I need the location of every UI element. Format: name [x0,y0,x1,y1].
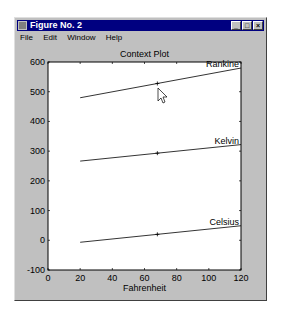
series-label-rankine: Rankine [206,59,239,69]
axes-box [48,62,241,270]
x-tick-label: 0 [45,273,50,283]
x-axis-label: Fahrenheit [123,283,167,293]
chart-title: Context Plot [120,49,170,59]
y-tick-label: 200 [30,176,45,186]
y-tick-label: -100 [27,265,45,275]
y-tick-label: 500 [30,87,45,97]
x-tick-label: 40 [107,273,117,283]
x-tick-label: 80 [172,273,182,283]
y-tick-label: 100 [30,206,45,216]
series-label-celsius: Celsius [209,217,239,227]
series-label-kelvin: Kelvin [214,136,239,146]
y-tick-label: 400 [30,116,45,126]
y-tick-label: 600 [30,57,45,67]
y-tick-label: 300 [30,146,45,156]
chart-canvas: Context Plot020406080100120-100010020030… [0,0,281,317]
x-tick-label: 20 [75,273,85,283]
x-tick-label: 100 [201,273,216,283]
y-tick-label: 0 [40,235,45,245]
x-tick-label: 60 [139,273,149,283]
x-tick-label: 120 [233,273,248,283]
